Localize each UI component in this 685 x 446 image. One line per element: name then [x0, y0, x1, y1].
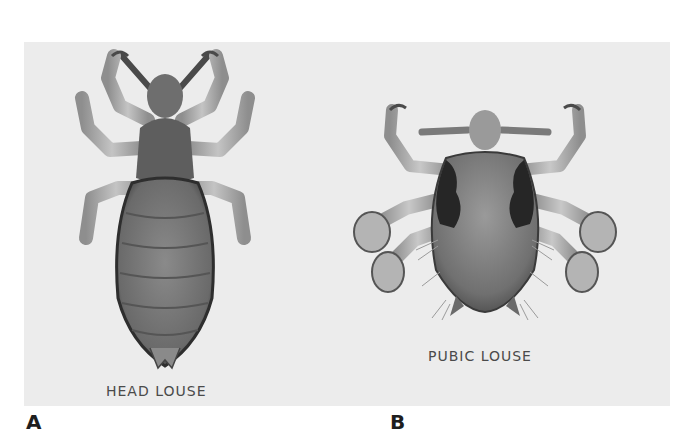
- head-louse-illustration: [70, 48, 260, 378]
- panel-label-a: A: [26, 410, 41, 434]
- pubic-louse-caption: PUBIC LOUSE: [428, 348, 532, 364]
- head-louse-caption: HEAD LOUSE: [106, 383, 206, 399]
- pubic-louse-illustration: [350, 100, 620, 320]
- panel-label-b: B: [390, 410, 405, 434]
